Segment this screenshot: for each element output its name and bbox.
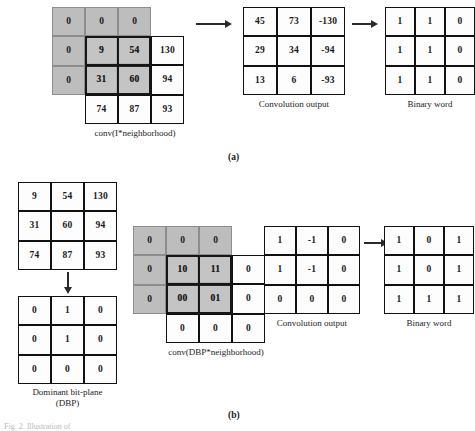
padding-cell: 0 — [133, 285, 166, 314]
grid-cell: 1 — [264, 255, 296, 284]
grid-cell: 6 — [277, 66, 311, 95]
arrow-right-icon — [352, 19, 378, 29]
panel-b-padding-left-col: 0 0 — [133, 255, 166, 314]
padding-cell: 0 — [166, 226, 199, 255]
grid-cell: 31 — [85, 65, 118, 94]
panel-a-neighborhood-caption: conv(I*neighborhood) — [50, 128, 220, 139]
panel-b-convolution-output-caption: Convolution output — [262, 318, 362, 329]
panel-b-convolution-output-grid: 1 -1 0 1 -1 0 0 0 0 — [264, 226, 360, 314]
grid-cell: 93 — [151, 95, 184, 124]
grid-cell: 0 — [414, 255, 444, 284]
panel-b-neighborhood-caption: conv(DBP*neighborhood) — [131, 347, 301, 358]
grid-cell: 54 — [51, 182, 84, 211]
grid-cell: 00 — [166, 284, 199, 313]
arrow-right-icon — [196, 19, 232, 29]
grid-cell: 73 — [277, 7, 311, 36]
panel-b-label: (b) — [228, 410, 240, 420]
panel-b-window-values: 10 11 00 01 — [166, 255, 232, 314]
panel-a-convolution-output-caption: Convolution output — [243, 99, 345, 110]
arrow-down-icon — [63, 272, 73, 294]
grid-cell: 1 — [51, 296, 84, 325]
grid-cell: 87 — [51, 241, 84, 270]
grid-cell: 11 — [199, 255, 232, 284]
grid-cell: 60 — [51, 211, 84, 240]
grid-cell: 1 — [414, 285, 444, 314]
padding-cell: 0 — [133, 255, 166, 284]
grid-cell: 9 — [18, 182, 51, 211]
grid-cell: 1 — [385, 36, 415, 65]
grid-cell: 0 — [166, 314, 199, 343]
panel-a-binary-word-grid: 1 1 0 1 1 0 1 1 0 — [385, 7, 475, 95]
grid-cell: 0 — [18, 355, 51, 384]
grid-cell: 0 — [51, 355, 84, 384]
panel-a-binary-word-caption: Binary word — [385, 99, 475, 110]
panel-b-binary-word-caption: Binary word — [384, 318, 474, 329]
grid-cell: 13 — [243, 66, 277, 95]
panel-a-label: (a) — [228, 152, 239, 162]
grid-cell: -1 — [296, 226, 328, 255]
grid-cell: 1 — [385, 7, 415, 36]
grid-cell: -94 — [311, 36, 345, 65]
grid-cell: 0 — [414, 226, 444, 255]
grid-cell: 0 — [232, 314, 265, 343]
panel-b-dbp-caption-line2: (DBP) — [5, 398, 130, 409]
grid-cell: 1 — [264, 226, 296, 255]
grid-cell: 1 — [444, 255, 474, 284]
grid-cell: 0 — [232, 255, 265, 284]
grid-cell: 130 — [151, 36, 184, 65]
grid-cell: -130 — [311, 7, 345, 36]
padding-cell: 0 — [133, 226, 166, 255]
padding-cell-empty — [151, 7, 184, 36]
grid-cell: 29 — [243, 36, 277, 65]
padding-cell: 0 — [52, 36, 85, 65]
grid-cell: 0 — [84, 325, 117, 354]
grid-cell: 0 — [232, 284, 265, 313]
grid-cell: 0 — [84, 296, 117, 325]
grid-cell: 0 — [296, 285, 328, 314]
padding-cell: 0 — [52, 66, 85, 95]
grid-cell: 74 — [85, 95, 118, 124]
grid-cell: 93 — [84, 241, 117, 270]
grid-cell: 1 — [384, 255, 414, 284]
panel-a-padding-top-row: 0 0 0 — [52, 7, 184, 36]
grid-cell: 0 — [445, 7, 475, 36]
panel-a-window-values: 9 54 31 60 — [85, 36, 151, 95]
grid-cell: 1 — [384, 285, 414, 314]
grid-cell: 0 — [18, 325, 51, 354]
grid-cell: -1 — [296, 255, 328, 284]
grid-cell: 0 — [84, 355, 117, 384]
grid-cell: 1 — [51, 325, 84, 354]
grid-cell: 60 — [118, 65, 151, 94]
grid-cell: 1 — [444, 226, 474, 255]
grid-cell: -93 — [311, 66, 345, 95]
grid-cell: 0 — [18, 296, 51, 325]
grid-cell: 1 — [415, 36, 445, 65]
panel-b-dbp-grid: 0 1 0 0 1 0 0 0 0 — [18, 296, 117, 384]
grid-cell: 0 — [445, 36, 475, 65]
grid-cell: 01 — [199, 284, 232, 313]
grid-cell: 0 — [328, 255, 360, 284]
padding-cell: 0 — [85, 7, 118, 36]
figure-bottom-caption: Fig. 2. Illustration of — [4, 422, 70, 431]
grid-cell: 94 — [84, 211, 117, 240]
panel-a-convolution-output-grid: 45 73 -130 29 34 -94 13 6 -93 — [243, 7, 345, 95]
grid-cell: 1 — [384, 226, 414, 255]
grid-cell: 1 — [415, 66, 445, 95]
panel-b-source-grid: 9 54 130 31 60 94 74 87 93 — [18, 182, 117, 270]
padding-cell: 0 — [118, 7, 151, 36]
grid-cell: 1 — [385, 66, 415, 95]
grid-cell: 45 — [243, 7, 277, 36]
padding-cell: 0 — [52, 7, 85, 36]
grid-cell: 0 — [328, 285, 360, 314]
grid-cell: 9 — [85, 36, 118, 65]
grid-cell: 94 — [151, 65, 184, 94]
padding-cell: 0 — [199, 226, 232, 255]
grid-cell: 0 — [264, 285, 296, 314]
panel-b-dbp-caption-line1: Dominant bit-plane — [5, 387, 130, 398]
grid-cell: 31 — [18, 211, 51, 240]
panel-b-padding-top-row: 0 0 0 — [133, 226, 265, 255]
panel-a-padding-left-col: 0 0 — [52, 36, 85, 95]
padding-cell-empty — [232, 226, 265, 255]
grid-cell: 74 — [18, 241, 51, 270]
grid-cell: 0 — [445, 66, 475, 95]
